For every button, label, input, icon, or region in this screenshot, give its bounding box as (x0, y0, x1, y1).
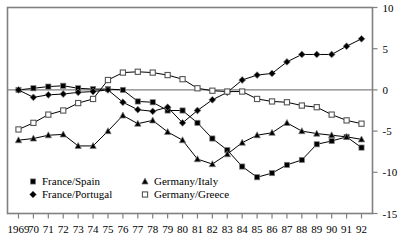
y-axis-tick-label: 5 (383, 43, 389, 55)
data-point-filled-square (269, 171, 274, 176)
data-point-filled-triangle (164, 129, 170, 135)
x-axis-tick-label: 83 (222, 223, 234, 235)
x-axis-tick-label: 75 (102, 223, 114, 235)
data-point-filled-triangle (284, 119, 290, 125)
data-point-open-square (165, 72, 170, 77)
data-point-filled-diamond (209, 96, 216, 103)
data-point-filled-square (314, 142, 319, 147)
x-axis-tick-label: 85 (252, 223, 264, 235)
data-point-filled-diamond (313, 51, 320, 58)
y-axis-tick-label: 10 (383, 2, 395, 14)
data-point-filled-diamond (298, 51, 305, 58)
data-point-filled-square (359, 145, 364, 150)
data-point-open-square (225, 89, 230, 94)
data-point-filled-square (61, 83, 66, 88)
x-axis-tick-label: 77 (132, 223, 144, 235)
data-point-open-square (195, 86, 200, 91)
legend-item[interactable]: France/Portugal (30, 188, 113, 200)
data-point-filled-diamond (254, 72, 261, 79)
data-point-filled-diamond (134, 106, 141, 113)
data-point-open-square (344, 118, 349, 123)
series-line (19, 86, 362, 177)
series-germany-italy (15, 112, 364, 167)
x-axis-tick-label: 70 (28, 223, 40, 235)
data-point-open-square (329, 112, 334, 117)
x-axis-tick-label: 92 (356, 223, 367, 235)
data-point-open-square (240, 89, 245, 94)
data-point-open-square (269, 99, 274, 104)
legend-item[interactable]: France/Spain (30, 175, 100, 187)
x-axis-tick-label: 89 (311, 223, 323, 235)
data-point-filled-square (210, 136, 215, 141)
x-axis-tick-label: 74 (88, 223, 100, 235)
x-axis-tick-label: 79 (162, 223, 174, 235)
x-axis-tick-label: 86 (267, 223, 279, 235)
series-germany-greece (16, 69, 364, 132)
data-point-open-square (46, 112, 51, 117)
data-point-filled-triangle (269, 129, 275, 135)
x-axis-tick-label: 76 (117, 223, 129, 235)
data-point-filled-diamond (328, 51, 335, 58)
data-point-open-square (16, 127, 21, 132)
data-point-open-square (359, 121, 364, 126)
x-axis-tick-label: 73 (73, 223, 85, 235)
data-point-open-square (299, 103, 304, 108)
data-point-open-square (180, 77, 185, 82)
line-chart: 1050-5-10-151969707172737475767778798081… (0, 0, 410, 245)
data-point-filled-square (135, 99, 140, 104)
data-point-filled-square (255, 175, 260, 180)
data-point-filled-diamond (45, 91, 52, 98)
data-point-filled-diamond (149, 108, 156, 115)
x-axis-tick-label: 87 (281, 223, 293, 235)
data-point-filled-triangle (60, 131, 66, 137)
series-france-spain (16, 83, 364, 180)
data-point-filled-square (284, 162, 289, 167)
y-axis-tick-label: -10 (383, 166, 398, 178)
data-point-filled-square (195, 120, 200, 125)
x-axis-tick-label: 82 (207, 223, 218, 235)
data-point-filled-triangle (120, 112, 126, 118)
data-point-filled-diamond (30, 94, 37, 101)
legend-item[interactable]: Germany/Greece (142, 188, 229, 200)
data-point-filled-square (180, 108, 185, 113)
legend-item[interactable]: Germany/Italy (142, 175, 219, 187)
series-line (19, 115, 362, 164)
data-point-filled-diamond (358, 35, 365, 42)
x-axis-tick-label: 90 (326, 223, 338, 235)
chart-container: 1050-5-10-151969707172737475767778798081… (0, 0, 410, 245)
legend-item-label: Germany/Greece (154, 188, 229, 200)
legend-item-label: Germany/Italy (154, 175, 219, 187)
data-point-open-square (284, 100, 289, 105)
data-point-open-square (210, 88, 215, 93)
data-point-open-square (150, 70, 155, 75)
series-line (19, 72, 362, 130)
x-axis-tick-label: 91 (341, 223, 352, 235)
data-point-filled-square (150, 100, 155, 105)
series-france-portugal (15, 35, 365, 126)
data-point-filled-diamond (343, 43, 350, 50)
x-axis-tick-label: 88 (296, 223, 308, 235)
x-axis-tick-label: 81 (192, 223, 203, 235)
data-point-filled-square (329, 138, 334, 143)
data-point-filled-triangle (239, 139, 245, 145)
data-point-filled-square (120, 87, 125, 92)
data-point-open-square (255, 96, 260, 101)
x-axis-tick-label: 1969 (8, 223, 31, 235)
x-axis-tick-label: 78 (147, 223, 159, 235)
data-point-filled-triangle (142, 178, 148, 184)
x-axis-tick-label: 84 (237, 223, 249, 235)
legend-item-label: France/Portugal (42, 188, 112, 200)
data-point-filled-square (30, 179, 35, 184)
data-point-filled-square (31, 86, 36, 91)
data-point-filled-diamond (30, 191, 37, 198)
data-point-open-square (135, 69, 140, 74)
data-point-open-square (314, 105, 319, 110)
data-point-open-square (142, 192, 147, 197)
x-axis-tick-label: 80 (177, 223, 189, 235)
data-point-open-square (105, 77, 110, 82)
x-axis-tick-label: 71 (43, 223, 54, 235)
data-point-open-square (31, 120, 36, 125)
series-line (19, 39, 362, 123)
legend: France/SpainFrance/PortugalGermany/Italy… (30, 175, 230, 200)
data-point-filled-triangle (150, 117, 156, 123)
